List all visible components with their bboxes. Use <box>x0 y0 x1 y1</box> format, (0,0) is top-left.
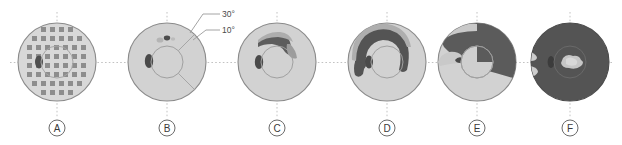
visual-field-series-figure: A 30° 10° B <box>0 0 622 145</box>
panel-a-letter: A <box>54 123 61 134</box>
panel-b-defect-spot-2 <box>157 37 164 42</box>
panel-a-outer-circle <box>18 23 96 101</box>
panel-c-letter: C <box>273 123 280 134</box>
label-10-degrees: 10° <box>222 25 235 35</box>
panel-b-letter: B <box>164 123 171 134</box>
figure-canvas: A 30° 10° B <box>0 0 622 145</box>
panel-b-defect-spot-1 <box>164 36 170 41</box>
panel-e-letter: E <box>474 123 481 134</box>
panel-f-letter: F <box>567 123 573 134</box>
panel-b-defect-spot-3 <box>171 37 175 41</box>
panel-d-letter: D <box>383 123 390 134</box>
panel-f-blind-spot <box>548 56 555 68</box>
label-30-degrees: 30° <box>222 9 235 19</box>
